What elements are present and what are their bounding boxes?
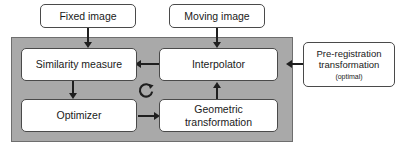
arrowhead-prereg-to-interpolator bbox=[286, 60, 292, 68]
node-optimizer[interactable]: Optimizer bbox=[21, 99, 137, 132]
node-fixed-image[interactable]: Fixed image bbox=[40, 4, 136, 28]
arrowhead-geometric-to-interpolator bbox=[213, 82, 221, 88]
node-geometric-transformation[interactable]: Geometric transformation bbox=[159, 99, 278, 132]
node-pre-registration-transformation-sublabel: (optimal) bbox=[335, 73, 362, 81]
node-interpolator-label: Interpolator bbox=[192, 58, 245, 70]
node-similarity-measure-label: Similarity measure bbox=[36, 58, 122, 70]
node-optimizer-label: Optimizer bbox=[57, 109, 102, 121]
node-pre-registration-transformation-label: Pre-registration transformation bbox=[317, 49, 382, 71]
node-similarity-measure[interactable]: Similarity measure bbox=[21, 48, 137, 81]
node-pre-registration-transformation[interactable]: Pre-registration transformation (optimal… bbox=[303, 42, 395, 87]
edge-interpolator-to-similarity bbox=[140, 63, 161, 65]
node-geometric-transformation-label: Geometric transformation bbox=[185, 103, 252, 127]
node-moving-image[interactable]: Moving image bbox=[169, 4, 265, 28]
diagram-canvas: Fixed image Moving image Similarity meas… bbox=[0, 0, 401, 151]
node-interpolator[interactable]: Interpolator bbox=[159, 48, 278, 81]
node-moving-image-label: Moving image bbox=[184, 10, 249, 22]
refresh-loop-icon bbox=[136, 81, 156, 101]
node-fixed-image-label: Fixed image bbox=[59, 10, 116, 22]
